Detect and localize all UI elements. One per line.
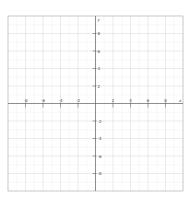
x-tick-label: 4 (129, 98, 132, 103)
x-tick-label: 6 (147, 98, 150, 103)
x-tick-label: -8 (24, 98, 28, 103)
x-tick-label: -2 (76, 98, 80, 103)
x-tick-label: 8 (164, 98, 167, 103)
x-tick-label: 2 (112, 98, 115, 103)
y-tick-label: -8 (98, 171, 102, 176)
y-tick-label: -4 (98, 136, 102, 141)
coordinate-plane: -8-6-4-22468 8642-2-4-6-8 x y (0, 0, 192, 201)
y-tick-label: -2 (98, 119, 102, 124)
x-tick-label: -4 (59, 98, 63, 103)
x-tick-label: -6 (41, 98, 45, 103)
y-tick-label: -6 (98, 154, 102, 159)
